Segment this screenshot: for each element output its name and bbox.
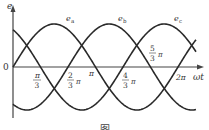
tick-label-4pi-over-3: 4 3 π [122,71,136,90]
origin-label: 0 [3,62,9,72]
tick-label-2pi-over-3: 2 3 π [67,71,81,90]
svg-text:2: 2 [68,71,73,80]
tick-label-pi: π [88,69,95,78]
svg-text:c: c [179,18,182,24]
x-axis-arrow-icon [197,65,204,70]
svg-text:5: 5 [150,44,155,53]
svg-text:3: 3 [150,54,155,63]
tick-label-pi-over-3: π 3 [33,71,41,90]
tick-label-2pi: 2π [175,73,187,82]
svg-text:3: 3 [123,81,128,90]
label-ea: e a [66,14,75,24]
label-ec: e c [174,14,182,24]
y-axis-label: e [7,1,12,11]
tick-label-5pi-over-3: 5 3 π [149,44,163,63]
svg-text:3: 3 [35,81,40,90]
svg-text:3: 3 [68,81,73,90]
svg-text:b: b [123,18,127,24]
three-phase-waveform-diagram: e 0 ωt e a e b e c π 3 2 3 π π 4 3 π 5 3… [0,0,209,130]
figure-caption: 图 [0,121,209,130]
svg-text:π: π [130,78,136,86]
svg-text:4: 4 [123,71,128,80]
svg-text:π: π [34,71,41,80]
x-axis-label: ωt [193,72,204,82]
svg-text:π: π [75,78,81,86]
svg-text:a: a [71,18,75,24]
label-eb: e b [118,14,127,24]
svg-text:π: π [157,51,163,59]
